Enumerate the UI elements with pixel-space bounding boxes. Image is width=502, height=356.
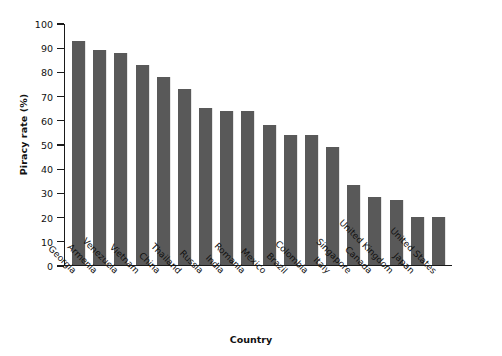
bar-slot [280,24,301,265]
bar [241,111,254,265]
y-axis-tick-label: 40 [41,164,53,175]
bar [178,89,191,265]
y-axis-tick: 30 [57,193,64,194]
y-axis-title-text: Piracy rate (%) [19,93,30,175]
x-axis-tick-labels: GeorgiaArmeniaVenezuelaVietnamChinaThail… [65,268,452,328]
y-axis-tick-label: 90 [41,43,53,54]
x-label-slot: Romania [237,268,258,328]
x-label-slot: Brazil [280,268,301,328]
x-label-slot: Italy [322,268,343,328]
x-axis-tick-label: Italy [324,270,345,291]
x-label-slot: Japan [407,268,428,328]
y-axis-tick-label: 0 [47,260,53,271]
x-label-slot: Mexico [259,268,280,328]
bar-slot [110,24,131,265]
bar-slot [68,24,89,265]
x-axis-title: Country [0,334,502,345]
bar [157,77,170,265]
bar [199,108,212,264]
bar-slot [364,24,385,265]
x-label-slot: Armenia [89,268,110,328]
x-label-slot: Colombia [301,268,322,328]
x-label-slot: Venezuela [110,268,131,328]
x-label-slot: Canada [364,268,385,328]
x-label-slot: Georgia [68,268,89,328]
y-axis-tick: 70 [57,96,64,97]
y-axis-tick-label: 50 [41,139,53,150]
y-axis-tick: 100 [57,23,64,24]
x-label-slot: Singapore [343,268,364,328]
x-axis-tick-label: United States [429,270,479,320]
bar-slot [259,24,280,265]
y-axis-tick-label: 60 [41,115,53,126]
bar-slot [174,24,195,265]
y-axis-tick: 80 [57,72,64,73]
x-label-slot: China [153,268,174,328]
y-axis-tick-label: 70 [41,91,53,102]
bar-slot [89,24,110,265]
y-axis-tick: 90 [57,48,64,49]
bar-slot [132,24,153,265]
bar-slot [301,24,322,265]
bar-slot [407,24,428,265]
y-axis-tick-label: 30 [41,188,53,199]
x-label-slot: Thailand [174,268,195,328]
y-axis-tick: 50 [57,144,64,145]
bar [136,65,149,265]
x-label-slot: India [216,268,237,328]
x-label-slot: United States [428,268,449,328]
x-label-slot: Vietnam [132,268,153,328]
x-label-slot: Russia [195,268,216,328]
bar-slot [216,24,237,265]
bar-slot [428,24,449,265]
bar-slot [237,24,258,265]
bar [93,50,106,264]
bar [114,53,127,265]
y-axis-tick-label: 80 [41,67,53,78]
bar [72,41,85,265]
piracy-rate-bar-chart: Piracy rate (%) 1009080706050403020100 G… [0,0,502,356]
y-axis-tick-label: 100 [35,19,53,30]
y-axis-tick: 10 [57,241,64,242]
bar [220,111,233,265]
bar-slot [195,24,216,265]
x-label-slot: United Kingdom [386,268,407,328]
bar [432,217,445,265]
y-axis-tick: 60 [57,120,64,121]
y-axis-tick: 20 [57,217,64,218]
y-axis-tick: 40 [57,169,64,170]
bar-slot [322,24,343,265]
bar-slot [153,24,174,265]
y-axis-tick-label: 20 [41,212,53,223]
y-axis-title: Piracy rate (%) [14,0,34,268]
